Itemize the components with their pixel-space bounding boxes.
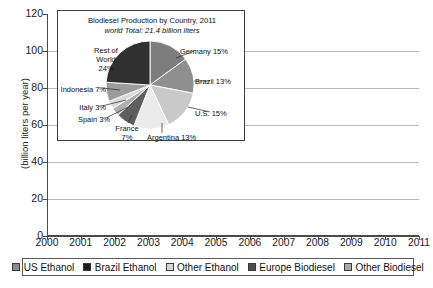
chart-legend: US EthanolBrazil EthanolOther EthanolEur… [22, 258, 414, 276]
legend-swatch-icon [12, 263, 20, 271]
x-tick-mark-2008 [318, 236, 319, 240]
legend-label: Other Ethanol [177, 262, 239, 273]
x-tick-mark-2000 [47, 236, 48, 240]
chart-figure: (billion liters per year) 02040608010012… [0, 0, 433, 288]
pie-label-germany: Germany 15% [180, 47, 228, 56]
x-tick-mark-2010 [385, 236, 386, 240]
pie-label-france-line1: France [110, 124, 144, 133]
legend-item-other-ethanol[interactable]: Other Ethanol [166, 262, 239, 273]
pie-label-france-line2: 7% [110, 133, 144, 142]
x-tick-mark-2007 [284, 236, 285, 240]
x-tick-mark-2002 [115, 236, 116, 240]
pie-label-indonesia: Indonesia 7% [2, 85, 106, 94]
pie-label-us: U.S. 15% [195, 109, 227, 118]
x-tick-mark-2006 [250, 236, 251, 240]
legend-swatch-icon [166, 263, 174, 271]
legend-label: US Ethanol [24, 262, 75, 273]
pie-label-row-line2: World [83, 55, 129, 64]
pie-label-argentina: Argentina 13% [147, 133, 196, 142]
y-tick-20: 20 [17, 192, 43, 204]
legend-item-brazil-ethanol[interactable]: Brazil Ethanol [83, 262, 156, 273]
y-tick-60: 60 [17, 118, 43, 130]
legend-swatch-icon [248, 263, 256, 271]
legend-item-europe-biodiesel[interactable]: Europe Biodiesel [248, 262, 335, 273]
pie-label-france: France 7% [110, 124, 144, 142]
pie-label-brazil: Brazil 13% [195, 77, 231, 86]
x-tick-mark-2011 [419, 236, 420, 240]
pie-label-spain: Spain 3% [46, 115, 110, 124]
x-tick-mark-2009 [351, 236, 352, 240]
legend-item-us-ethanol[interactable]: US Ethanol [12, 262, 74, 273]
pie-label-rest-of-world: Rest of World 24% [83, 46, 129, 73]
x-tick-mark-2005 [216, 236, 217, 240]
pie-label-row-line1: Rest of [83, 46, 129, 55]
legend-label: Brazil Ethanol [95, 262, 157, 273]
pie-inset-panel: Biodiesel Production by Country, 2011 wo… [57, 10, 245, 141]
y-tick-100: 100 [17, 44, 43, 56]
y-tick-120: 120 [17, 7, 43, 19]
y-tick-40: 40 [17, 155, 43, 167]
pie-label-italy: Italy 3% [42, 103, 106, 112]
legend-swatch-icon [83, 263, 91, 271]
x-tick-mark-2004 [182, 236, 183, 240]
legend-item-other-biodiesel[interactable]: Other Biodiesel [344, 262, 424, 273]
pie-label-row-line3: 24% [83, 64, 129, 73]
x-tick-mark-2001 [81, 236, 82, 240]
x-tick-mark-2003 [148, 236, 149, 240]
legend-label: Other Biodiesel [355, 262, 423, 273]
legend-swatch-icon [344, 263, 352, 271]
x-tick-2011: 2011 [397, 237, 433, 248]
legend-label: Europe Biodiesel [259, 262, 335, 273]
